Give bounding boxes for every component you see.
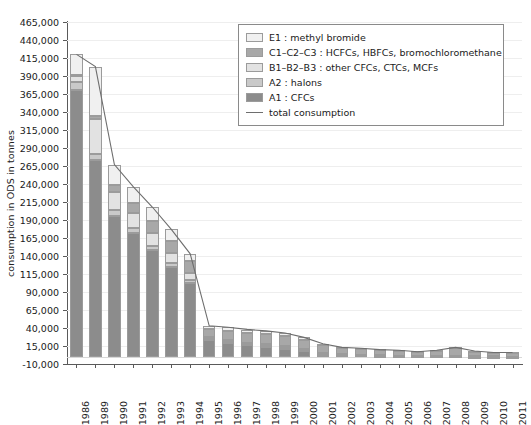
- y-axis-tick-label: 15,000: [0, 341, 59, 352]
- x-axis-tick-label: 1986: [80, 401, 91, 425]
- legend-item[interactable]: C1–C2–C3 : HCFCs, HBFCs, bromochlorometh…: [246, 45, 496, 60]
- x-axis-tick-label: 2007: [441, 401, 452, 425]
- x-axis-tick-label: 2009: [479, 401, 490, 425]
- legend-item[interactable]: E1 : methyl bromide: [246, 30, 496, 45]
- legend-swatch-icon: [246, 63, 263, 72]
- x-axis-tick-mark: [285, 364, 286, 368]
- x-axis-tick-mark: [247, 364, 248, 368]
- x-axis-tick-mark: [342, 364, 343, 368]
- x-axis-tick-label: 2006: [422, 401, 433, 425]
- y-axis-tick-label: 165,000: [0, 233, 59, 244]
- x-axis-tick-mark: [361, 364, 362, 368]
- y-axis-tick-label: 190,000: [0, 215, 59, 226]
- y-axis-tick-label: 465,000: [0, 17, 59, 28]
- x-axis-tick-mark: [76, 364, 77, 368]
- y-axis-tick-label: 240,000: [0, 179, 59, 190]
- y-axis-tick-label: 40,000: [0, 323, 59, 334]
- x-axis-tick-label: 1998: [270, 401, 281, 425]
- x-axis-tick-label: 2000: [308, 401, 319, 425]
- x-axis-tick-mark: [437, 364, 438, 368]
- x-axis-tick-mark: [380, 364, 381, 368]
- legend-item[interactable]: total consumption: [246, 105, 496, 120]
- x-axis-tick-label: 1994: [194, 401, 205, 425]
- x-axis-tick-label: 1995: [213, 401, 224, 425]
- x-axis-tick-label: 2003: [365, 401, 376, 425]
- x-axis-tick-mark: [494, 364, 495, 368]
- legend-swatch-icon: [246, 33, 263, 42]
- x-axis-tick-mark: [399, 364, 400, 368]
- x-axis-tick-mark: [304, 364, 305, 368]
- x-axis-tick-mark: [95, 364, 96, 368]
- y-axis-tick-label: 415,000: [0, 53, 59, 64]
- chart-legend: E1 : methyl bromideC1–C2–C3 : HCFCs, HBF…: [238, 24, 504, 126]
- y-axis-tick-label: 340,000: [0, 107, 59, 118]
- x-axis-tick-label: 1991: [137, 401, 148, 425]
- x-axis-tick-label: 2005: [403, 401, 414, 425]
- x-axis-tick-mark: [190, 364, 191, 368]
- x-axis-tick-label: 2010: [498, 401, 509, 425]
- legend-item[interactable]: A2 : halons: [246, 75, 496, 90]
- x-axis-line: [67, 364, 523, 365]
- legend-item[interactable]: A1 : CFCs: [246, 90, 496, 105]
- x-axis-tick-mark: [228, 364, 229, 368]
- y-axis-tick-label: 265,000: [0, 161, 59, 172]
- x-axis-tick-mark: [475, 364, 476, 368]
- x-axis-tick-label: 1997: [251, 401, 262, 425]
- legend-item-label: A2 : halons: [269, 77, 322, 88]
- x-axis-tick-mark: [266, 364, 267, 368]
- legend-swatch-icon: [246, 48, 263, 57]
- x-axis-tick-label: 1989: [99, 401, 110, 425]
- x-axis-tick-label: 2011: [517, 401, 528, 425]
- legend-item-label: total consumption: [269, 107, 355, 118]
- legend-item-label: B1–B2–B3 : other CFCs, CTCs, MCFs: [269, 62, 438, 73]
- x-axis-tick-label: 1996: [232, 401, 243, 425]
- y-axis-tick-label: 215,000: [0, 197, 59, 208]
- y-axis-tick-label: 115,000: [0, 269, 59, 280]
- legend-swatch-icon: [246, 78, 263, 87]
- y-axis-tick-label: 290,000: [0, 143, 59, 154]
- y-axis-tick-label: 315,000: [0, 125, 59, 136]
- legend-item-label: C1–C2–C3 : HCFCs, HBFCs, bromochlorometh…: [269, 47, 502, 58]
- legend-item-label: A1 : CFCs: [269, 92, 314, 103]
- y-axis-tick-label: 390,000: [0, 71, 59, 82]
- x-axis-tick-label: 1990: [118, 401, 129, 425]
- x-axis-tick-mark: [133, 364, 134, 368]
- y-axis-tick-label: 65,000: [0, 305, 59, 316]
- x-axis-tick-mark: [456, 364, 457, 368]
- y-axis-tick-label: 140,000: [0, 251, 59, 262]
- x-axis-tick-label: 2001: [327, 401, 338, 425]
- legend-swatch-icon: [246, 93, 263, 102]
- x-axis-tick-label: 1993: [175, 401, 186, 425]
- x-axis-tick-label: 1992: [156, 401, 167, 425]
- x-axis-tick-mark: [323, 364, 324, 368]
- x-axis-tick-label: 1999: [289, 401, 300, 425]
- x-axis-tick-mark: [513, 364, 514, 368]
- legend-item[interactable]: B1–B2–B3 : other CFCs, CTCs, MCFs: [246, 60, 496, 75]
- x-axis-tick-label: 2002: [346, 401, 357, 425]
- y-axis-tick-label: 440,000: [0, 35, 59, 46]
- y-axis-tick-label: 365,000: [0, 89, 59, 100]
- x-axis-tick-mark: [209, 364, 210, 368]
- x-axis-tick-label: 2004: [384, 401, 395, 425]
- x-axis-tick-mark: [152, 364, 153, 368]
- x-axis-tick-label: 2008: [460, 401, 471, 425]
- y-axis-tick-label: 90,000: [0, 287, 59, 298]
- x-axis-tick-mark: [418, 364, 419, 368]
- legend-line-icon: [246, 108, 263, 117]
- x-axis-tick-mark: [114, 364, 115, 368]
- x-axis-tick-mark: [171, 364, 172, 368]
- y-axis-tick-mark: [63, 364, 67, 365]
- y-axis-tick-label: -10,000: [0, 359, 59, 370]
- legend-item-label: E1 : methyl bromide: [269, 32, 366, 43]
